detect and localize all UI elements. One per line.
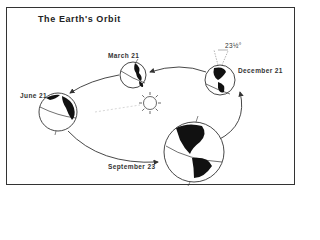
orbit-arrow-icon [70, 75, 119, 93]
label-december-21: December 21 [238, 67, 283, 74]
orbit-arrow-icon [218, 92, 242, 140]
sun-icon [139, 92, 161, 114]
earth-globe-icon [39, 93, 77, 135]
label-march-21: March 21 [108, 52, 139, 59]
label-september-23: September 23 [108, 163, 155, 170]
earth-globe-icon [205, 50, 235, 95]
earth-globe-icon [120, 59, 146, 88]
earth-globe-icon [164, 116, 224, 186]
label-june-21: June 21 [20, 92, 47, 99]
orbit-arrow-icon [150, 67, 206, 72]
orbit-arrow-icon [68, 131, 158, 162]
label-axial-tilt: 23½° [225, 42, 242, 49]
